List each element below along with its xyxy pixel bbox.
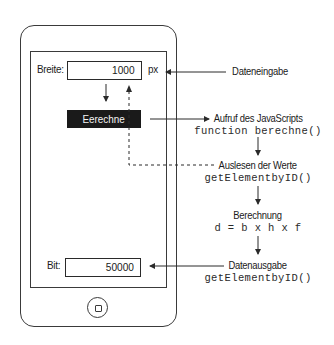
step-read-values-title: Auslesen der Werte <box>203 159 313 171</box>
step-data-output-code: getElementbyID() <box>198 272 318 284</box>
step-calculation-code: d = b x h x f <box>203 222 313 234</box>
step-js-call-title: Aufruf des JavaScripts <box>198 112 318 124</box>
step-calculation-title: Berechnung <box>213 209 303 221</box>
step-data-input: Dateneingabe <box>225 65 295 77</box>
step-data-output-title: Datenausgabe <box>213 259 303 271</box>
step-js-call-code: function berechne() <box>193 125 323 137</box>
step-read-values-code: getElementbyID() <box>198 172 318 184</box>
